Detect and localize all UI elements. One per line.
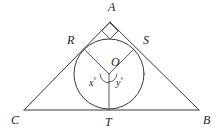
radius-OR [84,49,109,74]
geometry-figure: A R S O T C B x° y° [0,0,222,136]
tangent-label-R: R [67,34,74,46]
angle-arc-x-icon [100,74,109,83]
vertex-label-A: A [108,1,115,13]
degree-symbol-y: ° [120,76,123,84]
degree-symbol-x: ° [93,76,96,84]
angle-label-y: y° [116,78,123,88]
tangent-label-S: S [143,34,149,46]
center-label-O: O [111,56,120,68]
angle-label-x: x° [89,78,96,88]
right-angle-marker-icon [102,23,118,39]
side-AB [110,22,199,110]
tangent-label-T: T [105,116,112,128]
vertex-label-C: C [11,114,19,126]
vertex-label-B: B [203,114,210,126]
